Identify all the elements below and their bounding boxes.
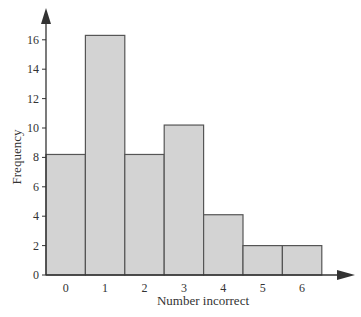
x-tick-label: 6 <box>299 281 305 295</box>
y-axis-label: Frequency <box>9 129 24 184</box>
y-tick-label: 2 <box>33 239 39 253</box>
bar-0 <box>46 154 85 275</box>
bar-6 <box>282 246 321 275</box>
y-tick-label: 12 <box>27 92 39 106</box>
y-tick-label: 6 <box>33 180 39 194</box>
y-tick-label: 4 <box>33 209 39 223</box>
x-tick-label: 0 <box>63 281 69 295</box>
x-axis-arrow-icon <box>337 270 355 280</box>
bar-1 <box>85 35 124 275</box>
y-axis-arrow-icon <box>41 8 51 24</box>
bar-3 <box>164 125 203 275</box>
y-tick-label: 14 <box>27 62 39 76</box>
y-ticks: 0246810121416 <box>27 33 46 282</box>
y-tick-label: 10 <box>27 121 39 135</box>
bars-group <box>46 35 322 275</box>
histogram-chart: 0246810121416 0123456 Number incorrect F… <box>0 0 361 317</box>
x-tick-label: 5 <box>260 281 266 295</box>
y-tick-label: 8 <box>33 150 39 164</box>
bar-2 <box>125 154 164 275</box>
bar-4 <box>204 215 243 275</box>
x-tick-label: 2 <box>142 281 148 295</box>
y-tick-label: 16 <box>27 33 39 47</box>
y-tick-label: 0 <box>33 268 39 282</box>
x-axis-label: Number incorrect <box>157 293 249 308</box>
bar-5 <box>243 246 282 275</box>
x-tick-label: 1 <box>102 281 108 295</box>
